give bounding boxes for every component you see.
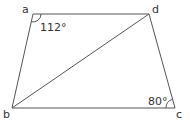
vertex-label-b: b: [3, 108, 10, 120]
angle-label-a: 112°: [40, 21, 67, 34]
vertex-label-d: d: [152, 3, 159, 16]
figure-canvas: a d b c 112° 80°: [0, 0, 190, 120]
side-ba: [12, 14, 33, 108]
quadrilateral-figure: a d b c 112° 80°: [0, 0, 190, 120]
vertex-label-a: a: [22, 3, 29, 16]
diagonal-bd: [12, 14, 149, 108]
vertex-label-c: c: [176, 108, 182, 120]
side-dc: [149, 14, 175, 108]
angle-label-c: 80°: [148, 95, 168, 108]
